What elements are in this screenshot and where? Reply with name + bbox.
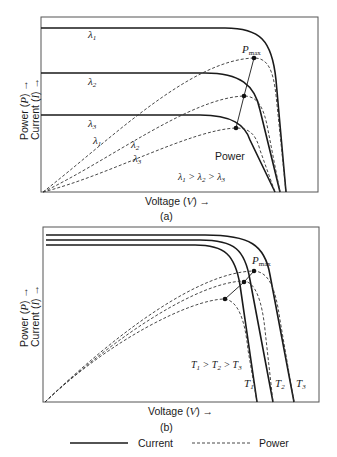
label-power-lambda3: λ3: [132, 152, 142, 166]
x-axis-label-a: Voltage (V) →: [145, 195, 210, 207]
power-curve-lambda2: [43, 96, 280, 192]
power-curve-T2: [45, 281, 273, 402]
power-curve-lambda1: [43, 58, 286, 192]
pmax-point-T2: [242, 280, 247, 285]
legend-current-label: Current: [138, 437, 173, 449]
plot-frame-a: [41, 17, 318, 192]
current-curve-T1: [46, 245, 257, 402]
caption-a: (a): [160, 210, 173, 222]
caption-b: (b): [160, 421, 173, 433]
label-pmax-a: Pmax: [241, 43, 261, 57]
pmax-point-T1: [223, 297, 228, 302]
current-curve-lambda2: [41, 73, 280, 192]
label-current-T2: T2: [275, 377, 285, 391]
power-curve-T3: [45, 271, 294, 402]
pmax-locus-a: [236, 58, 254, 128]
legend: Current Power: [70, 437, 289, 449]
pmax-point-lambda3: [234, 126, 239, 131]
y-axis-label-current-b: Current (I) →: [29, 285, 41, 347]
label-current-T1: T1: [244, 377, 254, 391]
legend-power-label: Power: [259, 437, 289, 449]
pmax-point-T3: [252, 269, 257, 274]
panel-a: λ1 λ2 λ3 λ1 λ2 λ3 Pmax Power λ1 > λ2 > λ…: [18, 17, 318, 222]
label-relation-a: λ1 > λ2 > λ3: [177, 171, 226, 184]
label-power-lambda2: λ2: [130, 138, 140, 152]
label-pmax-b: Pmax: [251, 254, 271, 268]
diagram-canvas: λ1 λ2 λ3 λ1 λ2 λ3 Pmax Power λ1 > λ2 > λ…: [0, 0, 337, 457]
panel-b: Pmax T1 > T2 > T3 T1 T2 T3 Power (P) → C…: [18, 227, 319, 433]
label-current-lambda3: λ3: [87, 117, 97, 131]
x-axis-label-b: Voltage (V) →: [148, 405, 213, 417]
pmax-point-lambda2: [242, 94, 247, 99]
label-power-a: Power: [215, 150, 245, 162]
label-current-lambda1: λ1: [87, 28, 96, 42]
label-current-lambda2: λ2: [87, 75, 97, 89]
label-power-lambda1: λ1: [92, 134, 101, 148]
y-axis-label-current-a: Current (I) →: [29, 78, 41, 140]
label-current-T3: T3: [296, 377, 306, 391]
label-relation-b: T1 > T2 > T3: [191, 359, 242, 372]
